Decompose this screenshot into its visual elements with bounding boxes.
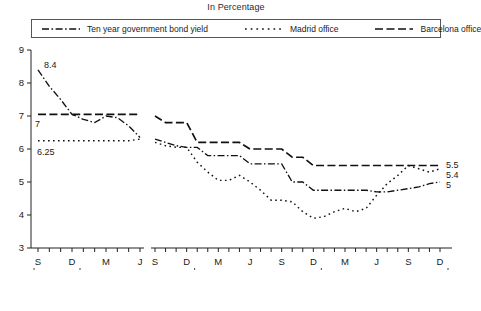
x-tick-label: J xyxy=(248,256,253,267)
dotted-line-icon xyxy=(244,25,284,33)
x-tick-label: D xyxy=(69,256,76,267)
annotation-end-bond: 5 xyxy=(446,180,451,190)
series-1 xyxy=(38,139,440,218)
plot-svg: 3456789SDMJSDMJSDMJSD19961997199819998.4… xyxy=(0,40,472,270)
y-tick-label: 8 xyxy=(19,77,24,88)
series-line xyxy=(155,142,440,218)
annotation-end-barcelona: 5.5 xyxy=(446,160,459,170)
x-tick-label: S xyxy=(152,256,158,267)
plot-area: 3456789SDMJSDMJSDMJSD19961997199819998.4… xyxy=(0,40,472,270)
dashed-line-icon xyxy=(374,25,414,33)
series-line xyxy=(155,116,440,166)
series-0 xyxy=(38,70,440,192)
annotation-start-bond: 8.4 xyxy=(44,60,57,70)
x-tick-label: M xyxy=(341,256,349,267)
legend-label-bond-yield: Ten year government bond yield xyxy=(87,24,208,34)
y-tick-label: 6 xyxy=(19,143,24,154)
x-tick-label: D xyxy=(310,256,317,267)
series-2 xyxy=(38,114,440,165)
x-tick-label: S xyxy=(35,256,41,267)
legend-item-madrid-office: Madrid office xyxy=(244,20,339,37)
series-line xyxy=(38,139,140,141)
dash-dot-line-icon xyxy=(41,25,81,33)
y-tick-label: 7 xyxy=(19,110,24,121)
legend-label-barcelona-office: Barcelona office xyxy=(420,24,481,34)
chart-title: In Percentage xyxy=(0,2,472,12)
legend-label-madrid-office: Madrid office xyxy=(290,24,339,34)
x-tick-label: J xyxy=(138,256,143,267)
x-tick-label: D xyxy=(183,256,190,267)
legend-item-barcelona-office: Barcelona office xyxy=(374,20,481,37)
y-tick-label: 4 xyxy=(19,209,24,220)
annotation-end-madrid: 5.4 xyxy=(446,170,459,180)
series-line xyxy=(38,70,140,138)
y-tick-label: 9 xyxy=(19,44,24,55)
chart-legend: Ten year government bond yield Madrid of… xyxy=(31,19,441,38)
x-tick-label: J xyxy=(374,256,379,267)
x-tick-label: M xyxy=(214,256,222,267)
legend-item-bond-yield: Ten year government bond yield xyxy=(41,20,208,37)
x-tick-label: S xyxy=(278,256,284,267)
annotation-start-barcelona: 7 xyxy=(35,119,40,129)
x-tick-label: D xyxy=(437,256,444,267)
x-tick-label: M xyxy=(102,256,110,267)
y-tick-label: 5 xyxy=(19,176,24,187)
x-tick-label: S xyxy=(405,256,411,267)
y-tick-label: 3 xyxy=(19,242,24,253)
annotation-start-madrid: 6.25 xyxy=(37,147,55,157)
